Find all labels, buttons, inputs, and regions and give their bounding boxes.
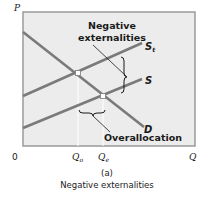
st-subscript: t	[152, 46, 155, 53]
qe-subscript: e	[105, 156, 109, 163]
x-axis-label: Q	[189, 153, 196, 162]
qo-subscript: o	[79, 156, 83, 163]
optimal-equilibrium-point	[76, 71, 81, 76]
externality-diagram: P 0 Q Qo Qe St S D Negative externalitie…	[0, 0, 214, 203]
negative-externalities-annotation: Negative externalities	[62, 21, 162, 42]
qe-label: Qe	[98, 153, 109, 163]
annotation-line-2: externalities	[62, 33, 162, 43]
figure-caption: Negative externalities	[0, 181, 214, 190]
origin-label: 0	[12, 153, 18, 162]
market-equilibrium-point	[101, 94, 106, 99]
annotation-line-1: Negative	[62, 21, 162, 31]
qo-label: Qo	[72, 153, 83, 163]
y-axis-label: P	[14, 4, 20, 13]
supply-label: S	[145, 76, 152, 86]
panel-label: (a)	[0, 169, 214, 178]
total-supply-label: St	[145, 42, 155, 53]
overallocation-annotation: Overallocation	[104, 133, 182, 143]
